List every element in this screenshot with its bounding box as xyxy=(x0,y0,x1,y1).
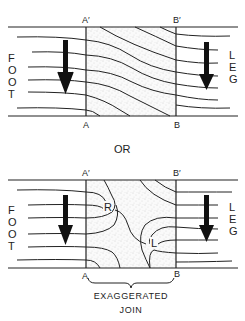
label-a-prime: A′ xyxy=(82,168,90,178)
caption-exaggerated: EXAGGERATED xyxy=(94,291,168,301)
foot-label: F O O T xyxy=(8,204,17,252)
svg-text:O: O xyxy=(8,216,17,228)
down-arrow-icon xyxy=(58,195,73,245)
label-r: R xyxy=(104,201,112,213)
or-separator: OR xyxy=(114,143,131,155)
svg-text:E: E xyxy=(229,61,236,73)
svg-text:G: G xyxy=(229,73,238,85)
top-panel: A′ B′ A B F O O T L E G xyxy=(8,15,238,130)
down-arrow-icon xyxy=(58,40,73,92)
caption-join: JOIN xyxy=(120,305,143,315)
leg-label: L E G xyxy=(229,49,238,85)
svg-text:L: L xyxy=(229,49,235,61)
label-b: B xyxy=(174,120,180,130)
curly-brace-icon xyxy=(88,278,174,288)
label-b: B xyxy=(174,269,180,279)
label-b-prime: B′ xyxy=(173,168,181,178)
stippled-join-region xyxy=(86,180,176,268)
svg-text:G: G xyxy=(229,225,238,237)
label-l: L xyxy=(151,237,157,249)
leg-label: L E G xyxy=(229,201,238,237)
svg-text:O: O xyxy=(8,64,17,76)
svg-text:T: T xyxy=(8,240,15,252)
bottom-panel: R L A′ B′ A B F O O T L E G EXAGGERATED … xyxy=(8,168,238,315)
svg-text:O: O xyxy=(8,76,17,88)
label-a: A xyxy=(82,271,88,281)
foot-ridges xyxy=(17,190,86,260)
label-b-prime: B′ xyxy=(173,15,181,25)
foot-label: F O O T xyxy=(8,52,17,100)
leg-ridges xyxy=(176,34,230,108)
svg-text:T: T xyxy=(8,88,15,100)
foot-ridges xyxy=(17,37,86,110)
svg-text:L: L xyxy=(229,201,235,213)
label-a: A xyxy=(83,120,89,130)
label-a-prime: A′ xyxy=(82,15,90,25)
svg-text:E: E xyxy=(229,213,236,225)
ridge-join-diagram: A′ B′ A B F O O T L E G OR xyxy=(0,0,245,321)
svg-text:F: F xyxy=(8,204,15,216)
svg-text:O: O xyxy=(8,228,17,240)
svg-text:F: F xyxy=(8,52,15,64)
